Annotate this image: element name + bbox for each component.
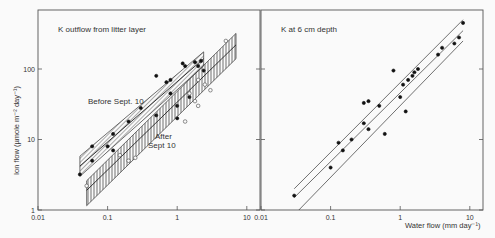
x-tick-label: 1 [398, 214, 402, 221]
open-data-point [224, 39, 228, 43]
filled-data-point [378, 104, 381, 107]
open-data-point [133, 156, 137, 160]
filled-data-point [197, 64, 200, 67]
open-data-point [209, 88, 213, 92]
filled-data-point [407, 78, 410, 81]
confidence-band [80, 52, 204, 176]
filled-data-point [293, 194, 296, 197]
y-tick-label: 1 [31, 207, 35, 214]
filled-data-point [411, 74, 414, 77]
filled-data-point [453, 42, 456, 45]
filled-data-point [181, 62, 184, 65]
before-label: Before Sept. 10 [88, 97, 144, 106]
filled-data-point [199, 59, 202, 62]
filled-data-point [169, 92, 172, 95]
y-axis-label: Ion flow (µmole m⁻² day⁻¹) [12, 85, 21, 175]
filled-data-point [362, 101, 365, 104]
x-tick-label: 1 [175, 214, 179, 221]
regression-line [87, 45, 236, 190]
y-tick-label: 100 [23, 66, 35, 73]
filled-data-point [367, 100, 370, 103]
filled-data-point [112, 149, 115, 152]
filled-data-point [404, 110, 407, 113]
open-data-point [118, 153, 122, 157]
filled-data-point [127, 120, 130, 123]
filled-data-point [155, 74, 158, 77]
filled-data-point [329, 166, 332, 169]
open-data-point [188, 92, 192, 96]
filled-data-point [112, 132, 115, 135]
filled-data-point [165, 81, 168, 84]
filled-data-point [91, 159, 94, 162]
filled-data-point [78, 173, 81, 176]
filled-data-point [169, 78, 172, 81]
confidence-band [87, 33, 236, 205]
filled-data-point [457, 36, 460, 39]
filled-data-point [461, 21, 464, 24]
filled-data-point [413, 71, 416, 74]
open-data-point [127, 159, 131, 163]
filled-data-point [367, 128, 370, 131]
open-data-point [85, 184, 89, 188]
filled-data-point [337, 141, 340, 144]
fit-line-lower [299, 41, 463, 210]
x-tick-label: 0.1 [103, 214, 113, 221]
filled-data-point [193, 61, 196, 64]
after-label-line2: Sept 10 [148, 141, 176, 150]
open-data-point [183, 120, 187, 124]
filled-data-point [184, 64, 187, 67]
filled-data-point [383, 132, 386, 135]
open-data-point [196, 104, 200, 108]
filled-data-point [350, 138, 353, 141]
filled-data-point [399, 95, 402, 98]
x-tick-label: 0.01 [254, 214, 268, 221]
filled-data-point [436, 53, 439, 56]
right-panel-title: K at 6 cm depth [281, 25, 337, 34]
x-tick-label: 10 [466, 214, 474, 221]
x-tick-label: 0.01 [31, 214, 45, 221]
chart-figure: 0.010.1110110100 0.010.1110 K outflow fr… [0, 0, 495, 238]
filled-data-point [392, 69, 395, 72]
filled-data-point [441, 46, 444, 49]
left-panel: 0.010.1110110100 [23, 10, 260, 221]
open-data-point [203, 83, 207, 87]
y-tick-label: 10 [27, 136, 35, 143]
filled-data-point [139, 106, 142, 109]
x-axis-label: Water flow (mm day⁻¹) [405, 221, 481, 230]
filled-data-point [91, 145, 94, 148]
plot-frame [261, 10, 483, 210]
x-tick-label: 10 [243, 214, 251, 221]
filled-data-point [362, 122, 365, 125]
left-panel-title: K outflow from litter layer [58, 25, 146, 34]
x-tick-label: 0.1 [326, 214, 336, 221]
after-label-line1: After [155, 132, 172, 141]
open-data-point [196, 78, 200, 82]
filled-data-point [341, 149, 344, 152]
filled-data-point [401, 83, 404, 86]
open-data-point [193, 99, 197, 103]
right-panel: 0.010.1110 [254, 10, 483, 221]
filled-data-point [106, 145, 109, 148]
filled-data-point [416, 67, 419, 70]
